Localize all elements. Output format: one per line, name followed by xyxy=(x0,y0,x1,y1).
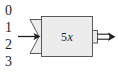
input-digit-2: 2 xyxy=(5,37,12,52)
rule-coefficient: 5 xyxy=(61,30,67,44)
input-digit-3: 3 xyxy=(5,54,12,69)
function-machine-figure: 0 1 2 3 5x xyxy=(0,0,118,73)
input-digit-0: 0 xyxy=(5,3,12,18)
rule-variable: x xyxy=(67,30,74,44)
function-machine-canvas: 0 1 2 3 5x xyxy=(0,0,118,73)
machine-rule-label: 5x xyxy=(61,30,74,44)
input-digit-1: 1 xyxy=(5,20,12,35)
